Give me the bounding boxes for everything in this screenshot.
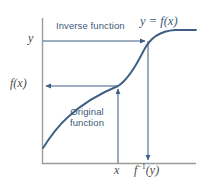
original-function-label: Original function [70, 107, 104, 128]
original-function-label-line2: function [70, 118, 104, 129]
y-axis-value-label: y [28, 32, 33, 45]
inverse-label-exponent: −1 [137, 162, 146, 171]
inverse-function-label: Inverse function [56, 21, 125, 32]
x-axis-value-label: x [114, 164, 119, 177]
inverse-function-diagram: Inverse function Original function y f(x… [0, 0, 204, 191]
inverse-axis-value-label: f−1(y) [134, 163, 159, 177]
inverse-label-argument: (y) [146, 163, 159, 177]
curve-equation-label: y = f(x) [140, 14, 178, 28]
fx-axis-value-label: f(x) [10, 77, 27, 90]
guide-lines-group [43, 41, 148, 163]
function-curve [43, 30, 196, 148]
axes-group [42, 18, 196, 164]
